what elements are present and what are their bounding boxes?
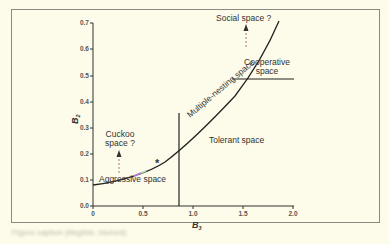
y-tick-label: 0.6 bbox=[80, 45, 89, 52]
y-tick-label: 0.2 bbox=[80, 150, 89, 157]
y-tick-label: 0.5 bbox=[80, 72, 89, 79]
diagram: 0.0 0.1 0.2 0.3 0.4 0.5 0.6 0.7 0 0.5 1.… bbox=[0, 0, 389, 244]
aggressive-space-label: Aggressive space bbox=[99, 174, 166, 184]
cooperative-space-label-2: space bbox=[256, 66, 279, 76]
y-axis-label: B2 bbox=[70, 114, 81, 124]
social-arrow bbox=[244, 24, 249, 47]
curve-highlight bbox=[141, 171, 146, 173]
multiple-nesting-boundary-curve bbox=[93, 21, 279, 185]
figure-caption: Figure caption (illegible, blurred) bbox=[12, 228, 372, 238]
y-tick-label: 0.7 bbox=[80, 19, 89, 26]
tolerant-space-label: Tolerant space bbox=[209, 135, 265, 145]
star-marker: * bbox=[155, 157, 160, 169]
x-tick-label: 1.0 bbox=[188, 210, 197, 217]
x-tick-label: 0 bbox=[91, 210, 95, 217]
x-tick-label: 0.5 bbox=[138, 210, 147, 217]
social-space-label: Social space ? bbox=[216, 13, 272, 23]
y-tick-label: 0.0 bbox=[80, 202, 89, 209]
y-tick-label: 0.1 bbox=[80, 176, 89, 183]
arrow-up-icon bbox=[117, 150, 122, 157]
cuckoo-space-label-2: space ? bbox=[105, 138, 135, 148]
arrow-up-icon bbox=[244, 24, 249, 31]
y-tick-label: 0.3 bbox=[80, 124, 89, 131]
cuckoo-arrow bbox=[117, 150, 122, 173]
x-tick-label: 1.5 bbox=[238, 210, 247, 217]
y-tick-label: 0.4 bbox=[80, 98, 89, 105]
x-tick-label: 2.0 bbox=[288, 210, 297, 217]
